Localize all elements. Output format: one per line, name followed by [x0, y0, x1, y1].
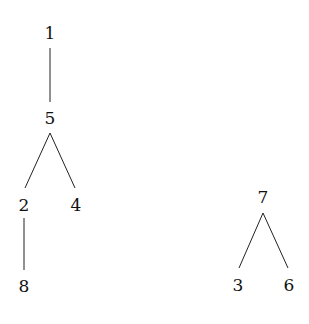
node-5: 5: [45, 110, 56, 127]
node-2: 2: [19, 197, 30, 214]
node-4: 4: [71, 197, 82, 214]
edge-7-6: [263, 213, 288, 268]
edges-layer: [0, 0, 309, 324]
edge-7-3: [239, 213, 263, 268]
edge-5-4: [50, 133, 75, 188]
node-7: 7: [258, 189, 269, 206]
node-1: 1: [45, 25, 56, 42]
node-6: 6: [284, 277, 295, 294]
node-3: 3: [233, 277, 244, 294]
node-8: 8: [19, 278, 30, 295]
tree-diagram: 1 5 2 4 8 7 3 6: [0, 0, 309, 324]
edge-5-2: [25, 133, 50, 188]
